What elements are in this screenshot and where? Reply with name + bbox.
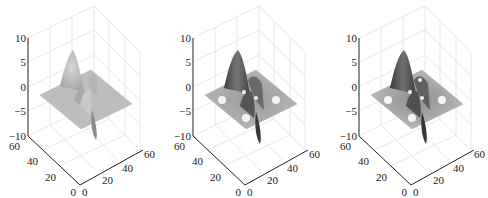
svg-text:10: 10 — [180, 32, 192, 44]
svg-text:60: 60 — [474, 148, 486, 160]
z-tick-labels: 10 5 0 −5 −10 — [9, 32, 27, 142]
svg-text:60: 60 — [309, 148, 321, 160]
surface-plot-2: 10 5 0 −5 −10 60 40 20 0 0 20 40 60 — [160, 0, 323, 198]
svg-text:−5: −5 — [179, 105, 191, 117]
svg-text:20: 20 — [267, 174, 279, 186]
svg-text:20: 20 — [433, 174, 445, 186]
plot-2-svg: 10 5 0 −5 −10 60 40 20 0 0 20 40 60 — [160, 0, 325, 198]
svg-text:40: 40 — [453, 162, 465, 174]
svg-text:60: 60 — [174, 140, 186, 152]
svg-text:0: 0 — [402, 186, 408, 198]
svg-text:20: 20 — [45, 171, 57, 183]
svg-text:40: 40 — [192, 155, 204, 167]
svg-text:5: 5 — [21, 56, 27, 68]
svg-text:40: 40 — [287, 162, 299, 174]
svg-text:60: 60 — [144, 148, 156, 160]
svg-text:5: 5 — [352, 56, 358, 68]
svg-text:0: 0 — [186, 81, 192, 93]
y-tick-labels: 60 40 20 0 — [174, 140, 242, 198]
svg-text:5: 5 — [186, 56, 192, 68]
plot-1-svg: 10 5 0 −5 −10 60 40 20 0 0 20 40 60 — [0, 0, 163, 198]
x-tick-labels: 0 20 40 60 — [247, 148, 321, 198]
svg-text:0: 0 — [21, 81, 27, 93]
x-tick-labels: 0 20 40 60 — [413, 148, 486, 198]
svg-text:10: 10 — [346, 32, 358, 44]
svg-text:40: 40 — [358, 155, 370, 167]
surface-plot-1: 10 5 0 −5 −10 60 40 20 0 0 20 40 60 — [0, 0, 163, 198]
svg-text:40: 40 — [27, 155, 39, 167]
svg-text:20: 20 — [376, 171, 388, 183]
surface-plot-3: 10 5 0 −5 −10 60 40 20 0 0 20 40 60 — [322, 0, 485, 198]
svg-text:40: 40 — [122, 162, 134, 174]
surface — [40, 50, 132, 140]
y-tick-labels: 60 40 20 0 — [340, 140, 408, 198]
svg-text:60: 60 — [9, 140, 21, 152]
svg-text:20: 20 — [210, 171, 222, 183]
x-tick-labels: 0 20 40 60 — [82, 148, 156, 198]
svg-text:−5: −5 — [14, 105, 26, 117]
svg-text:20: 20 — [102, 174, 114, 186]
z-tick-labels: 10 5 0 −5 −10 — [340, 32, 358, 142]
svg-text:10: 10 — [15, 32, 27, 44]
plot-3-svg: 10 5 0 −5 −10 60 40 20 0 0 20 40 60 — [322, 0, 488, 198]
svg-text:0: 0 — [82, 186, 88, 198]
svg-text:0: 0 — [71, 186, 77, 198]
svg-text:0: 0 — [247, 186, 253, 198]
svg-text:0: 0 — [413, 186, 419, 198]
z-tick-labels: 10 5 0 −5 −10 — [174, 32, 192, 142]
y-tick-labels: 60 40 20 0 — [9, 140, 77, 198]
svg-text:60: 60 — [340, 140, 352, 152]
svg-text:−5: −5 — [345, 105, 357, 117]
svg-text:0: 0 — [352, 81, 358, 93]
svg-text:0: 0 — [236, 186, 242, 198]
